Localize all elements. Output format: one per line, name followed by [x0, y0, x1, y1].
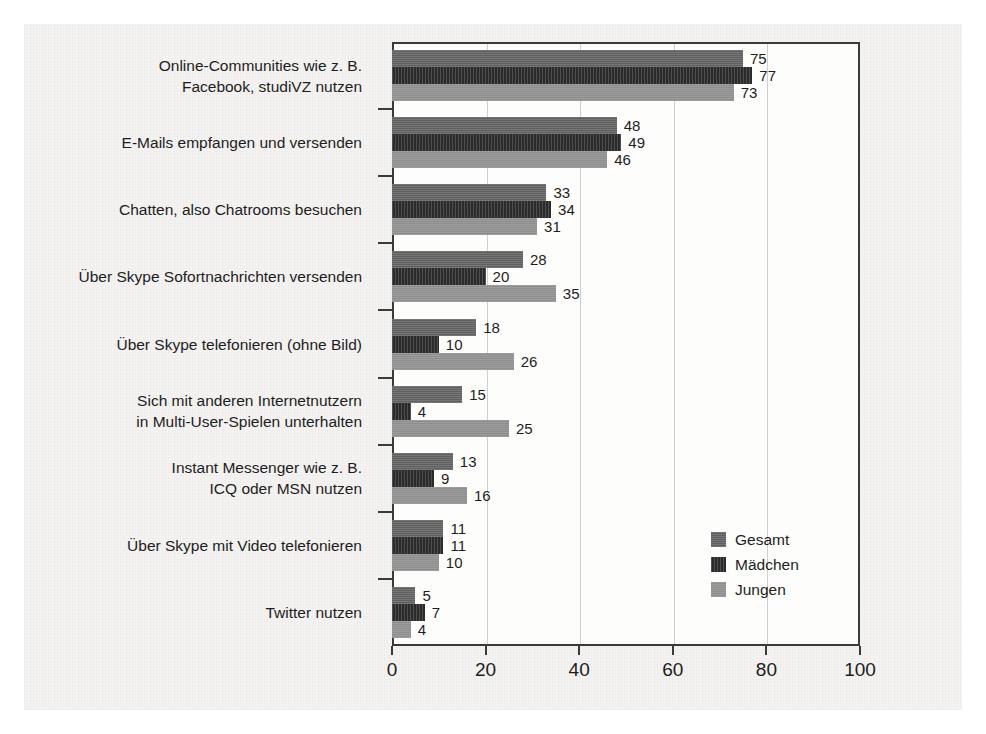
bar-row: 13 — [392, 453, 860, 470]
bar-value-label: 15 — [462, 386, 486, 403]
bar-value-label: 16 — [467, 487, 491, 504]
category-label-4: Über Skype telefonieren (ohne Bild) — [116, 334, 362, 355]
bar-gesamt-3 — [392, 251, 523, 268]
bar-row: 18 — [392, 319, 860, 336]
bar-row: 77 — [392, 67, 860, 84]
bar-value-label: 33 — [546, 184, 570, 201]
bar-mädchen-3 — [392, 268, 486, 285]
bar-value-label: 5 — [415, 587, 430, 604]
bar-value-label: 25 — [509, 420, 533, 437]
bar-gesamt-8 — [392, 587, 415, 604]
bar-value-label: 49 — [621, 134, 645, 151]
bar-group-3: 282035 — [392, 251, 860, 302]
bar-gesamt-5 — [392, 386, 462, 403]
bar-value-label: 20 — [486, 268, 510, 285]
legend-swatch-gesamt — [711, 532, 726, 547]
x-tick-100 — [859, 646, 861, 655]
bar-value-label: 4 — [411, 403, 426, 420]
category-label-8: Twitter nutzen — [266, 602, 363, 623]
category-tick-3 — [378, 242, 392, 244]
category-label-line: Über Skype telefonieren (ohne Bild) — [116, 334, 362, 355]
bar-row: 46 — [392, 151, 860, 168]
category-label-line: in Multi-User-Spielen unterhalten — [136, 411, 362, 432]
category-tick-1 — [378, 108, 392, 110]
category-label-7: Über Skype mit Video telefonieren — [127, 535, 362, 556]
bar-gesamt-6 — [392, 453, 453, 470]
bar-row: 31 — [392, 218, 860, 235]
legend-swatch-mädchen — [711, 557, 726, 572]
bar-jungen-8 — [392, 621, 411, 638]
bar-row: 16 — [392, 487, 860, 504]
x-tick-40 — [578, 646, 580, 655]
bar-value-label: 7 — [425, 604, 440, 621]
bar-jungen-5 — [392, 420, 509, 437]
bar-mädchen-1 — [392, 134, 621, 151]
bar-mädchen-5 — [392, 403, 411, 420]
category-label-line: Facebook, studiVZ nutzen — [159, 76, 362, 97]
category-tick-8 — [378, 578, 392, 580]
category-tick-5 — [378, 377, 392, 379]
bar-row: 48 — [392, 117, 860, 134]
bar-group-1: 484946 — [392, 117, 860, 168]
bar-value-label: 4 — [411, 621, 426, 638]
legend-item-jungen[interactable]: Jungen — [711, 577, 799, 602]
bar-row: 49 — [392, 134, 860, 151]
bar-gesamt-7 — [392, 520, 443, 537]
category-label-3: Über Skype Sofortnachrichten versenden — [79, 266, 362, 287]
category-tick-7 — [378, 511, 392, 513]
legend-label: Jungen — [735, 581, 786, 599]
legend-label: Gesamt — [735, 531, 789, 549]
category-label-line: Chatten, also Chatrooms besuchen — [119, 199, 362, 220]
bar-value-label: 31 — [537, 218, 561, 235]
x-tick-label-40: 40 — [569, 659, 590, 681]
bar-jungen-0 — [392, 84, 734, 101]
bar-value-label: 77 — [752, 67, 776, 84]
bar-value-label: 10 — [439, 336, 463, 353]
bar-row: 15 — [392, 386, 860, 403]
x-tick-0 — [391, 646, 393, 655]
bar-mädchen-0 — [392, 67, 752, 84]
chart-legend: GesamtMädchenJungen — [711, 527, 799, 602]
bar-value-label: 35 — [556, 285, 580, 302]
category-label-line: Sich mit anderen Internetnutzern — [136, 390, 362, 411]
category-label-0: Online-Communities wie z. B.Facebook, st… — [159, 55, 362, 97]
bar-value-label: 73 — [734, 84, 758, 101]
category-label-line: Über Skype Sofortnachrichten versenden — [79, 266, 362, 287]
chart-figure: Online-Communities wie z. B.Facebook, st… — [0, 0, 986, 734]
category-label-line: Instant Messenger wie z. B. — [172, 457, 362, 478]
bar-value-label: 26 — [514, 353, 538, 370]
bar-group-2: 333431 — [392, 184, 860, 235]
category-tick-2 — [378, 175, 392, 177]
bar-group-6: 13916 — [392, 453, 860, 504]
bar-row: 73 — [392, 84, 860, 101]
legend-item-mädchen[interactable]: Mädchen — [711, 552, 799, 577]
x-tick-20 — [485, 646, 487, 655]
bar-value-label: 18 — [476, 319, 500, 336]
bar-value-label: 34 — [551, 201, 575, 218]
bar-value-label: 75 — [743, 50, 767, 67]
category-label-2: Chatten, also Chatrooms besuchen — [119, 199, 362, 220]
bar-value-label: 13 — [453, 453, 477, 470]
bar-value-label: 11 — [443, 520, 466, 537]
bar-row: 75 — [392, 50, 860, 67]
x-tick-label-0: 0 — [387, 659, 398, 681]
category-tick-6 — [378, 444, 392, 446]
legend-item-gesamt[interactable]: Gesamt — [711, 527, 799, 552]
bar-group-5: 15425 — [392, 386, 860, 437]
bar-value-label: 46 — [607, 151, 631, 168]
bar-value-label: 10 — [439, 554, 463, 571]
bar-jungen-1 — [392, 151, 607, 168]
x-tick-60 — [672, 646, 674, 655]
bar-row: 4 — [392, 621, 860, 638]
bar-row: 28 — [392, 251, 860, 268]
bar-row: 10 — [392, 336, 860, 353]
bar-value-label: 9 — [434, 470, 449, 487]
bar-mädchen-4 — [392, 336, 439, 353]
bar-jungen-3 — [392, 285, 556, 302]
category-label-5: Sich mit anderen Internetnutzernin Multi… — [136, 390, 362, 432]
bar-gesamt-4 — [392, 319, 476, 336]
category-label-line: Online-Communities wie z. B. — [159, 55, 362, 76]
bar-mädchen-6 — [392, 470, 434, 487]
bar-row: 25 — [392, 420, 860, 437]
category-label-line: ICQ oder MSN nutzen — [172, 478, 362, 499]
